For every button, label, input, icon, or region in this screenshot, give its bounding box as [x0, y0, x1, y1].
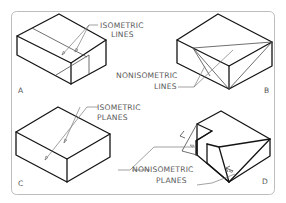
isometric-diagram: ISOMETRIC LINES A NONISOMETRIC LINES B — [0, 0, 286, 203]
panel-label-c: C — [18, 179, 23, 188]
callout-c-line1: ISOMETRIC — [97, 103, 141, 112]
panel-label-b: B — [264, 86, 269, 95]
panel-label-d: D — [262, 177, 268, 186]
callout-a-line1: ISOMETRIC — [100, 21, 144, 30]
callout-a-line2: LINES — [111, 30, 134, 39]
panel-label-a: A — [18, 86, 24, 95]
callout-b-line2: LINES — [154, 82, 177, 91]
callout-d-line2: PLANES — [156, 176, 187, 185]
callout-c-line2: PLANES — [97, 113, 128, 122]
callout-b-line1: NONISOMETRIC — [116, 71, 178, 80]
callout-d-line1: NONISOMETRIC — [132, 165, 194, 174]
